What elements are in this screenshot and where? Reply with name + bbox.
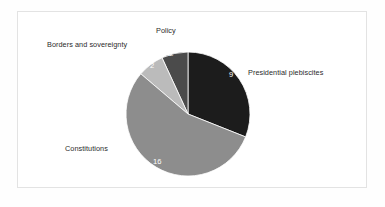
pie-svg — [0, 0, 385, 207]
slice-label-presidential-plebiscites: Presidential plebiscites — [248, 69, 323, 76]
chart-plot-area: Presidential plebiscites Policy Borders … — [0, 0, 385, 207]
slice-value-constitutions: 16 — [153, 158, 161, 166]
slice-label-constitutions: Constitutions — [65, 145, 108, 152]
slice-value-presidential-plebiscites: 9 — [229, 71, 233, 79]
slice-value-borders-and-sovereignty: 2 — [150, 62, 154, 70]
slice-value-policy: 2 — [169, 50, 173, 58]
slice-label-borders-and-sovereignty: Borders and sovereignty — [47, 41, 127, 48]
slice-label-policy: Policy — [156, 27, 176, 34]
pie-chart-figure: Presidential plebiscites Policy Borders … — [0, 0, 385, 207]
